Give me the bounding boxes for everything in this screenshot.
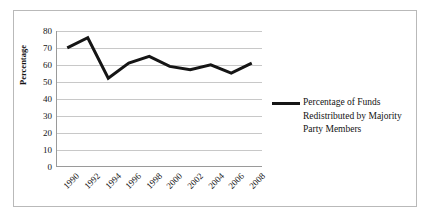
x-axis-tick-labels: 1990199219941996199820002002200420062008 (56, 167, 262, 217)
y-tick-label: 60 (30, 61, 52, 70)
x-tick-label: 2000 (165, 171, 185, 191)
y-axis-label: Percentage (18, 30, 28, 100)
x-tick-label: 2006 (226, 171, 246, 191)
legend-line-marker (272, 102, 300, 105)
x-tick-label: 2004 (206, 171, 226, 191)
y-tick-label: 40 (30, 95, 52, 104)
y-tick-label: 10 (30, 146, 52, 155)
data-line-series (57, 31, 262, 166)
x-tick-label: 1990 (62, 171, 82, 191)
chart-figure: Percentage 01020304050607080 19901992199… (0, 0, 430, 221)
series-polyline (67, 38, 252, 79)
y-tick-label: 20 (30, 129, 52, 138)
y-axis-tick-labels: 01020304050607080 (28, 0, 52, 221)
x-tick-label: 1996 (123, 171, 143, 191)
plot-area (56, 31, 262, 167)
y-tick-label: 50 (30, 78, 52, 87)
x-tick-label: 1994 (103, 171, 123, 191)
y-tick-label: 30 (30, 112, 52, 121)
x-tick-label: 2002 (185, 171, 205, 191)
y-tick-label: 80 (30, 27, 52, 36)
y-tick-label: 70 (30, 44, 52, 53)
x-tick-label: 1998 (144, 171, 164, 191)
legend-item-label: Percentage of Funds Redistributed by Maj… (303, 96, 407, 137)
y-tick-label: 0 (30, 163, 52, 172)
x-tick-label: 1992 (82, 171, 102, 191)
